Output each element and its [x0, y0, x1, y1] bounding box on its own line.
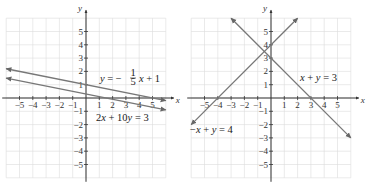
y-tick-label: −3 — [258, 133, 268, 143]
y-tick-label: 1 — [79, 80, 84, 90]
equation-label-1: y = − — [99, 73, 122, 84]
y-tick-label: −3 — [73, 133, 83, 143]
left-graph: −5−4−3−2−11234554321−1−2−3−4−5xyy = −15x… — [2, 3, 180, 182]
y-tick-label: −5 — [258, 160, 268, 170]
y-tick-label: −5 — [73, 160, 83, 170]
x-tick-label: 2 — [110, 100, 115, 110]
y-tick-label: 2 — [79, 66, 84, 76]
svg-text:5: 5 — [130, 76, 135, 87]
y-tick-label: −2 — [258, 120, 268, 130]
y-tick-label: −1 — [73, 106, 83, 116]
x-tick-label: −5 — [200, 100, 210, 110]
x-axis-label: x — [360, 95, 365, 105]
x-tick-label: 2 — [295, 100, 300, 110]
y-tick-label: −4 — [73, 146, 83, 156]
x-tick-label: −3 — [226, 100, 236, 110]
y-tick-label: 5 — [264, 27, 269, 37]
x-tick-label: 1 — [282, 100, 287, 110]
y-tick-label: 1 — [264, 80, 269, 90]
y-tick-label: 3 — [79, 53, 84, 63]
y-axis-label: y — [77, 3, 82, 13]
x-tick-label: −5 — [15, 100, 25, 110]
equation-label-4: −x + y = 4 — [190, 124, 234, 135]
y-tick-label: −2 — [73, 120, 83, 130]
y-tick-label: 2 — [264, 66, 269, 76]
chart-canvas: −5−4−3−2−11234554321−1−2−3−4−5xyy = −15x… — [0, 0, 371, 185]
x-axis-label: x — [175, 95, 180, 105]
y-axis-label: y — [262, 3, 267, 13]
x-tick-label: −3 — [41, 100, 51, 110]
x-tick-label: −2 — [240, 100, 250, 110]
x-tick-label: 3 — [309, 100, 314, 110]
y-tick-label: 4 — [79, 40, 84, 50]
x-tick-label: 5 — [150, 100, 155, 110]
y-tick-label: 5 — [79, 27, 84, 37]
x-tick-label: 4 — [322, 100, 327, 110]
svg-text:x + 1: x + 1 — [138, 73, 160, 84]
right-graph: −5−4−3−2−11234554321−1−2−3−4−5xyx + y = … — [187, 3, 365, 182]
y-tick-label: −1 — [258, 106, 268, 116]
x-tick-label: 1 — [97, 100, 102, 110]
equation-label-3: x + y = 3 — [299, 72, 337, 83]
x-tick-label: −2 — [55, 100, 65, 110]
equation-label-2: 2x + 10y = 3 — [96, 112, 149, 123]
y-tick-label: −4 — [258, 146, 268, 156]
x-tick-label: −4 — [28, 100, 38, 110]
x-tick-label: 5 — [335, 100, 340, 110]
